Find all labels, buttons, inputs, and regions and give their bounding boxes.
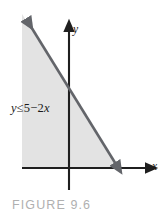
inequality-relation: ≤ [17,101,24,115]
figure-9-6: y x y≤5−2x FIGURE 9.6 [0,0,167,224]
inequality-label: y≤5−2x [11,101,50,116]
inequality-rhs-variable: x [44,101,50,115]
y-axis-label: y [73,23,78,35]
x-axis-label: x [152,160,157,172]
figure-caption: FIGURE 9.6 [12,198,162,212]
inequality-rhs-sign: − [30,101,37,115]
